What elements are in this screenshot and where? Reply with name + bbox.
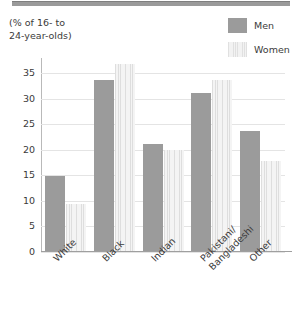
legend-item-men: Men (228, 15, 300, 35)
y-axis-tick-label: 10 (13, 196, 35, 206)
bar-women (164, 150, 184, 251)
y-axis-tick-label: 0 (13, 247, 35, 257)
legend-item-women: Women (228, 39, 300, 59)
y-axis-caption: (% of 16- to 24-year-olds) (9, 17, 139, 42)
y-axis-tick-label: 20 (13, 145, 35, 155)
bar-men (94, 80, 114, 251)
y-axis-tick-label: 5 (13, 221, 35, 231)
chart-legend: Men Women (228, 15, 300, 63)
legend-label-men: Men (254, 20, 274, 31)
y-axis-tick-label: 30 (13, 94, 35, 104)
chart-figure: (% of 16- to 24-year-olds) Men Women 051… (0, 0, 302, 330)
legend-swatch-women-icon (228, 42, 247, 57)
bar-men (143, 144, 163, 251)
bar-women (115, 64, 135, 251)
legend-label-women: Women (254, 44, 290, 55)
y-axis-tick-label: 35 (13, 68, 35, 78)
top-divider-rule (12, 1, 290, 6)
x-axis-category-labels: WhiteBlackIndianPakistani/ BangladeshiOt… (41, 252, 302, 330)
bar-men (45, 176, 65, 251)
legend-swatch-men-icon (228, 18, 247, 33)
bar-men (191, 93, 211, 251)
y-axis-tick-label: 25 (13, 119, 35, 129)
y-axis-tick-label: 15 (13, 170, 35, 180)
